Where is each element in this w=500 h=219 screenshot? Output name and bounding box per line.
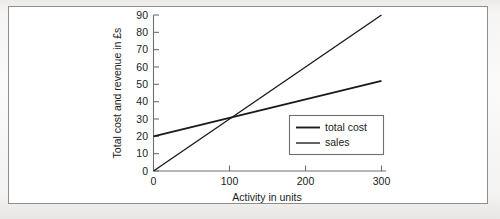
y-tick-label-20: 20 [136, 130, 148, 142]
y-tick-label-40: 40 [136, 95, 148, 107]
y-tick-label-30: 30 [136, 113, 148, 125]
y-tick-label-0: 0 [142, 165, 148, 177]
y-axis-tick-labels: 0 10 20 30 40 50 60 70 80 90 [136, 9, 148, 177]
x-tick-label-100: 100 [221, 175, 239, 187]
y-tick-label-50: 50 [136, 78, 148, 90]
y-tick-label-70: 70 [136, 43, 148, 55]
legend-label-total-cost: total cost [325, 121, 367, 133]
legend-label-sales: sales [325, 136, 350, 148]
x-tick-label-300: 300 [373, 175, 391, 187]
x-axis-title: Activity in units [232, 191, 301, 203]
y-tick-label-60: 60 [136, 61, 148, 73]
y-tick-label-10: 10 [136, 147, 148, 159]
x-axis-ticks [154, 166, 382, 172]
x-tick-label-200: 200 [297, 175, 315, 187]
x-axis-tick-labels: 0 100 200 300 [151, 175, 391, 187]
chart-plot-area: 0 10 20 30 40 50 60 70 80 90 [9, 7, 489, 205]
y-tick-label-90: 90 [136, 9, 148, 21]
y-axis-ticks [154, 15, 160, 171]
page-background: 0 10 20 30 40 50 60 70 80 90 [0, 0, 500, 219]
x-tick-label-0: 0 [151, 175, 157, 187]
chart-legend[interactable]: total cost sales [290, 116, 384, 155]
figure-frame: 0 10 20 30 40 50 60 70 80 90 [8, 6, 488, 204]
y-tick-label-80: 80 [136, 26, 148, 38]
break-even-chart: 0 10 20 30 40 50 60 70 80 90 [9, 7, 489, 205]
y-axis-title: Total cost and revenue in £s [111, 28, 123, 159]
